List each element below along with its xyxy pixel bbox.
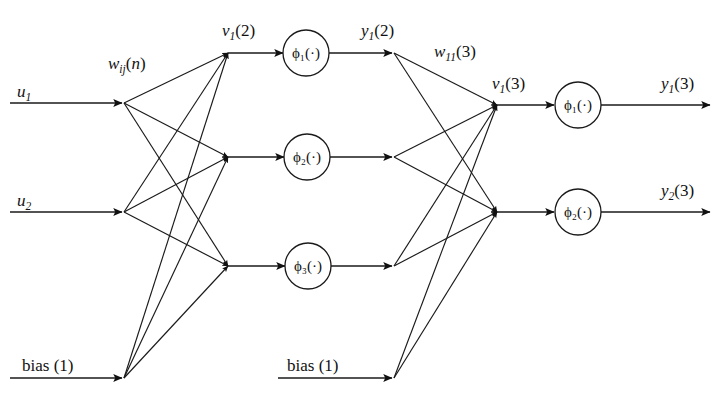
output-node-1-label: ϕ₁(·) xyxy=(564,97,592,114)
label-y2-layer3: y2(3) xyxy=(659,181,694,202)
hidden-nodes-group: ϕ₁(·) ϕ₂(·) ϕ₃(·) xyxy=(283,30,331,289)
label-v1-layer2: v1(2) xyxy=(222,21,255,42)
edge-u2-to-h3 xyxy=(124,212,228,266)
edge-h1-to-o2 xyxy=(394,53,497,212)
label-weight-hidden: wij(n) xyxy=(108,54,146,76)
edges-hidden-to-output xyxy=(394,53,497,378)
edges-input-to-hidden xyxy=(124,53,228,378)
edge-h2-to-o1 xyxy=(394,105,497,157)
output-node-2-label: ϕ₂(·) xyxy=(564,204,592,221)
label-y1-layer3: y1(3) xyxy=(659,74,694,95)
hidden-node-to-fan-lines xyxy=(329,53,392,266)
edge-bias1-to-h1 xyxy=(124,53,228,378)
edge-bias2-to-o2 xyxy=(394,212,497,378)
label-y1-layer2: y1(2) xyxy=(359,21,394,42)
hidden-node-1-label: ϕ₁(·) xyxy=(292,45,320,62)
edge-h3-to-o2 xyxy=(394,212,497,266)
label-v1-layer3: v1(3) xyxy=(492,74,525,95)
input-lines-group xyxy=(10,103,122,378)
label-bias-layer1: bias (1) xyxy=(22,356,73,375)
label-weight-output: w11(3) xyxy=(434,42,476,63)
hidden-node-2-label: ϕ₂(·) xyxy=(293,149,321,166)
nn-signal-flow-svg: ϕ₁(·) ϕ₂(·) ϕ₃(·) xyxy=(0,0,718,397)
output-junction-to-node-lines xyxy=(497,105,554,212)
neural-network-diagram: ϕ₁(·) ϕ₂(·) ϕ₃(·) xyxy=(0,0,718,397)
output-nodes-group: ϕ₁(·) ϕ₂(·) xyxy=(555,82,601,235)
edge-u2-to-h2 xyxy=(124,157,228,212)
label-input-u1: u1 xyxy=(17,82,31,103)
hidden-node-3-label: ϕ₃(·) xyxy=(294,258,322,275)
hidden-junction-to-node-lines xyxy=(228,53,285,266)
label-bias-layer2: bias (1) xyxy=(287,356,338,375)
edge-bias1-to-h2 xyxy=(124,157,228,378)
edge-bias1-to-h3 xyxy=(124,266,228,378)
label-input-u2: u2 xyxy=(17,191,32,212)
edge-u1-to-h2 xyxy=(124,103,228,157)
edge-u2-to-h1 xyxy=(124,53,228,212)
